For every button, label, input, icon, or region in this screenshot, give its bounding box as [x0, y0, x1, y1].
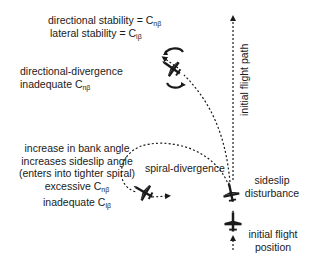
initial-position-plane-icon [224, 210, 241, 231]
divergence-diagram [0, 0, 312, 260]
spiral-explanation-line: increase in bank angle [8, 142, 146, 155]
spiral-explanation-subscript: nβ [101, 186, 109, 193]
cause-subscript: nβ [82, 84, 90, 91]
initial-position-line: position [240, 241, 306, 254]
spiral-explanation-subscript: lβ [105, 202, 111, 209]
directional-divergence-label: directional-divergence [20, 65, 123, 78]
spiral-explanation-excessive: excessive Cnβ [8, 180, 146, 197]
cause-text: inadequate C [20, 78, 82, 90]
yaw-arrow-top-icon [165, 48, 183, 53]
initial-position-line: initial flight [240, 228, 306, 241]
legend-subscript: lβ [136, 33, 142, 40]
directional-divergence-cause: inadequate Cnβ [20, 78, 90, 95]
spiral-divergence-label: spiral-divergence [145, 162, 225, 175]
legend-lateral-stability: lateral stability = Clβ [50, 27, 142, 44]
sideslip-disturbance-label: sideslip disturbance [242, 174, 302, 199]
initial-flight-path-label: initial flight path [238, 44, 251, 116]
spiral-explanation-line: increases sideslip angle [8, 155, 146, 168]
spiral-explanation-line: (enters into tighter spiral) [8, 167, 146, 180]
initial-flight-position-label: initial flight position [240, 228, 306, 253]
spiral-explanation-inadequate: inadequate Clβ [8, 196, 146, 213]
spiral-explanation-text: inadequate C [43, 196, 105, 208]
spiral-divergence-extension [152, 196, 168, 197]
sideslip-line: disturbance [242, 187, 302, 200]
directional-divergence-title: directional-divergence [20, 65, 123, 78]
legend-text: lateral stability = C [50, 27, 136, 39]
sideslip-line: sideslip [242, 174, 302, 187]
sideslip-plane-icon [221, 180, 241, 203]
spiral-explanation-text: excessive C [45, 180, 102, 192]
spiral-explanation: increase in bank angle increases sidesli… [8, 142, 146, 213]
yaw-arrow-bottom-icon [167, 83, 183, 88]
legend-text: directional stability = C [48, 14, 153, 26]
legend-subscript: nβ [153, 20, 161, 27]
directional-plane-icon [157, 54, 184, 80]
